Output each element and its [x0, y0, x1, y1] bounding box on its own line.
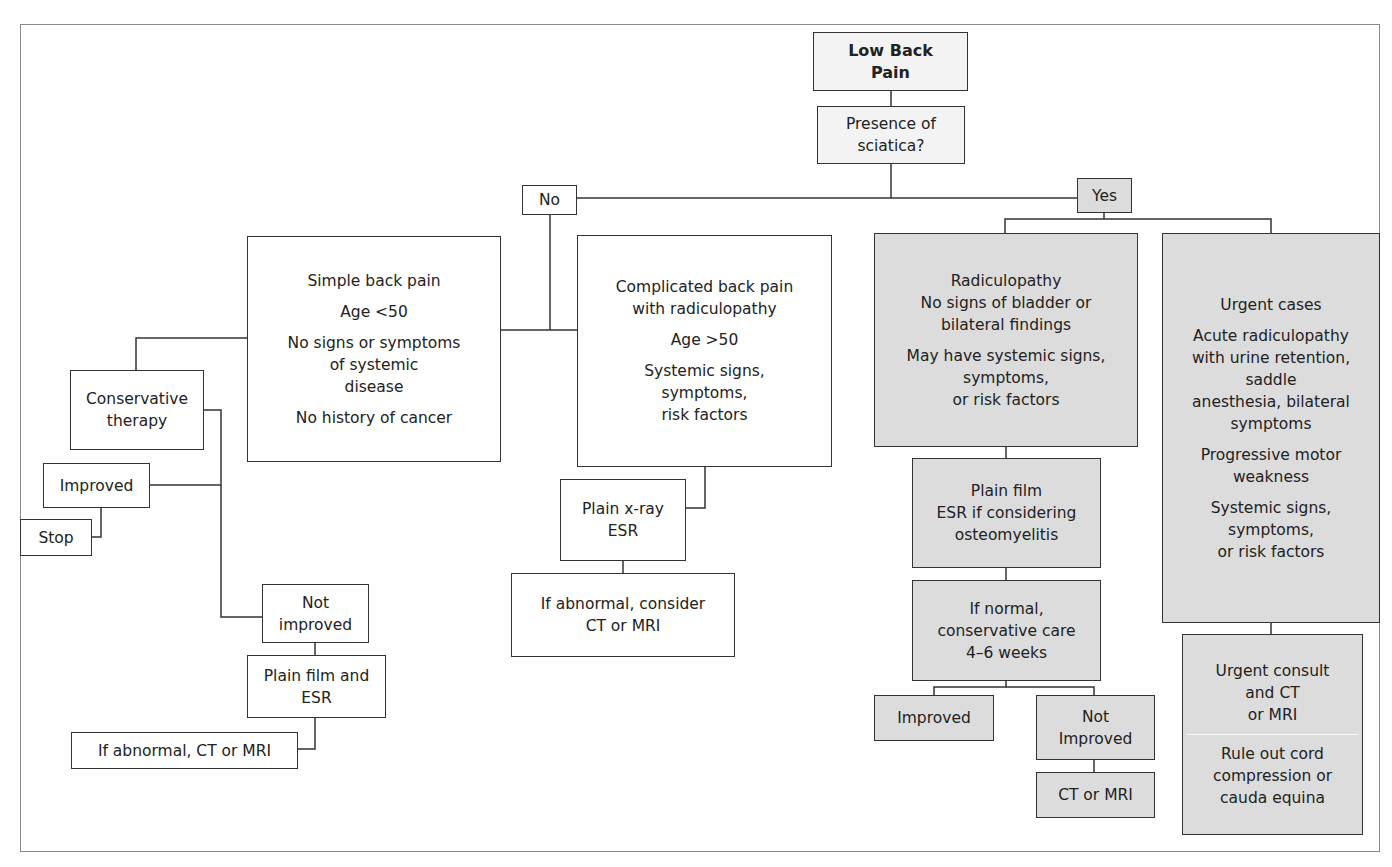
node-improved-right: Improved: [874, 695, 994, 741]
node-not-improved-left: Not improved: [262, 584, 369, 643]
node-if-abnormal-consider: If abnormal, consider CT or MRI: [511, 573, 735, 657]
node-plain-film-and-esr: Plain film and ESR: [247, 655, 386, 718]
node-label: or risk factors: [1211, 541, 1332, 563]
node-label: with radiculopathy: [616, 298, 794, 320]
node-label: symptoms,: [1211, 519, 1332, 541]
node-label: If abnormal, CT or MRI: [98, 740, 271, 762]
node-label: Age <50: [340, 301, 408, 323]
node-label: Improved: [897, 707, 971, 729]
node-label: Systemic signs,: [1211, 497, 1332, 519]
node-label: or MRI: [1216, 704, 1330, 726]
node-label: Age >50: [671, 329, 739, 351]
node-label: osteomyelitis: [955, 524, 1059, 546]
node-if-normal-conservative-care: If normal, conservative care 4–6 weeks: [912, 580, 1101, 681]
node-label: Urgent consult: [1216, 660, 1330, 682]
node-label: symptoms,: [644, 382, 765, 404]
node-label: saddle: [1192, 369, 1350, 391]
node-label: Conservative: [86, 388, 188, 410]
node-plain-xray-esr: Plain x-ray ESR: [560, 479, 686, 561]
node-label: symptoms: [1192, 413, 1350, 435]
node-stop: Stop: [20, 519, 92, 556]
node-label: or risk factors: [907, 389, 1106, 411]
node-label: Simple back pain: [307, 270, 440, 292]
node-label: May have systemic signs,: [907, 345, 1106, 367]
node-label: If normal,: [969, 598, 1043, 620]
node-label: Progressive motor: [1201, 444, 1342, 466]
node-label: No history of cancer: [296, 407, 452, 429]
node-label: Acute radiculopathy: [1192, 325, 1350, 347]
node-label: and CT: [1216, 682, 1330, 704]
node-label: with urine retention,: [1192, 347, 1350, 369]
node-radiculopathy: Radiculopathy No signs of bladder or bil…: [874, 233, 1138, 447]
node-label: Low Back: [848, 40, 933, 62]
node-plain-film-osteomyelitis: Plain film ESR if considering osteomyeli…: [912, 458, 1101, 568]
node-label: ESR: [608, 520, 638, 542]
node-label: If abnormal, consider: [541, 593, 705, 615]
node-label: ESR if considering: [937, 502, 1077, 524]
node-ct-or-mri: CT or MRI: [1036, 772, 1155, 818]
node-label: Urgent cases: [1220, 294, 1321, 316]
node-label: Systemic signs,: [644, 360, 765, 382]
node-label: 4–6 weeks: [966, 642, 1047, 664]
node-label: Complicated back pain: [616, 276, 794, 298]
node-urgent-cases: Urgent cases Acute radiculopathy with ur…: [1162, 233, 1380, 623]
node-label: disease: [288, 376, 461, 398]
node-label: Improved: [1059, 728, 1133, 750]
node-label: therapy: [107, 410, 167, 432]
node-label: Plain film and: [264, 665, 369, 687]
node-label: cauda equina: [1213, 787, 1332, 809]
node-label: Pain: [871, 62, 910, 84]
node-label: Not: [1082, 706, 1109, 728]
node-label: Radiculopathy: [921, 270, 1092, 292]
node-label: ESR: [301, 687, 331, 709]
node-label: symptoms,: [907, 367, 1106, 389]
node-label: weakness: [1201, 466, 1342, 488]
node-yes: Yes: [1077, 178, 1132, 213]
node-complicated-back-pain: Complicated back pain with radiculopathy…: [577, 235, 832, 467]
node-conservative-therapy: Conservative therapy: [70, 370, 204, 450]
node-label: of systemic: [288, 354, 461, 376]
node-label: sciatica?: [857, 135, 924, 157]
node-label: conservative care: [937, 620, 1075, 642]
node-label: CT or MRI: [1058, 784, 1133, 806]
node-label: No: [539, 189, 560, 211]
node-label: improved: [279, 614, 352, 636]
node-label: CT or MRI: [586, 615, 661, 637]
node-presence-of-sciatica: Presence of sciatica?: [817, 106, 965, 164]
node-urgent-consult: Urgent consult and CT or MRI Rule out co…: [1182, 634, 1363, 835]
node-label: compression or: [1213, 765, 1332, 787]
node-no: No: [522, 185, 577, 215]
node-label: Plain film: [971, 480, 1042, 502]
node-if-abnormal-ct-mri-left: If abnormal, CT or MRI: [71, 732, 298, 769]
node-label: Rule out cord: [1213, 743, 1332, 765]
node-label: anesthesia, bilateral: [1192, 391, 1350, 413]
node-label: risk factors: [644, 404, 765, 426]
node-label: Plain x-ray: [582, 498, 664, 520]
node-not-improved-right: Not Improved: [1036, 695, 1155, 760]
divider: [1187, 734, 1358, 735]
node-label: Presence of: [846, 113, 936, 135]
node-simple-back-pain: Simple back pain Age <50 No signs or sym…: [247, 236, 501, 462]
node-label: Improved: [60, 475, 134, 497]
node-low-back-pain: Low Back Pain: [813, 32, 968, 91]
node-label: Stop: [38, 527, 73, 549]
node-label: bilateral findings: [921, 314, 1092, 336]
node-label: No signs or symptoms: [288, 332, 461, 354]
node-label: Not: [302, 592, 329, 614]
node-label: No signs of bladder or: [921, 292, 1092, 314]
node-improved-left: Improved: [43, 463, 150, 508]
node-label: Yes: [1092, 185, 1117, 207]
